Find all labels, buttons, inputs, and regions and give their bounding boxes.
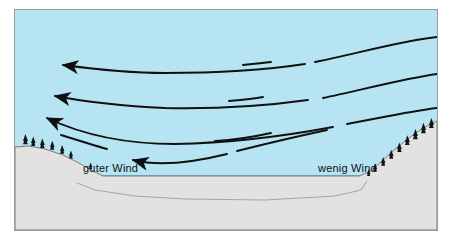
label-guter-wind: guter Wind — [83, 163, 138, 174]
figure-frame: guter Wind wenig Wind — [14, 9, 438, 231]
wind-valley-figure: guter Wind wenig Wind — [0, 0, 451, 242]
valley-cross-section-svg — [15, 10, 437, 230]
label-wenig-wind: wenig Wind — [318, 163, 377, 174]
